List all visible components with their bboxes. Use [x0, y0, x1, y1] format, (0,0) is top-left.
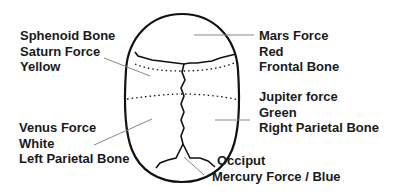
label-sphenoid: Sphenoid Bone Saturn Force Yellow	[20, 28, 115, 75]
sagittal-suture	[181, 64, 185, 144]
label-left-parietal: Venus Force White Left Parietal Bone	[19, 120, 130, 167]
label-line: White	[19, 136, 130, 152]
label-line: Sphenoid Bone	[20, 28, 115, 44]
label-line: Saturn Force	[20, 44, 115, 60]
coronal-suture	[135, 52, 236, 64]
label-line: Right Parietal Bone	[259, 120, 379, 136]
label-line: Mercury Force / Blue	[212, 169, 341, 185]
label-line: Occiput	[212, 153, 341, 169]
label-line: Red	[259, 44, 339, 60]
label-line: Left Parietal Bone	[19, 151, 130, 167]
label-line: Green	[259, 105, 379, 121]
label-line: Yellow	[20, 59, 115, 75]
label-occiput: Occiput Mercury Force / Blue	[212, 153, 341, 184]
lambdoid-suture	[156, 144, 215, 168]
skull-diagram: Sphenoid Bone Saturn Force Yellow Mars F…	[0, 0, 399, 196]
label-line: Frontal Bone	[259, 59, 339, 75]
leader-line-occiput	[184, 157, 204, 175]
label-frontal: Mars Force Red Frontal Bone	[259, 28, 339, 75]
label-right-parietal: Jupiter force Green Right Parietal Bone	[259, 89, 379, 136]
label-line: Jupiter force	[259, 89, 379, 105]
label-line: Mars Force	[259, 28, 339, 44]
label-line: Venus Force	[19, 120, 130, 136]
